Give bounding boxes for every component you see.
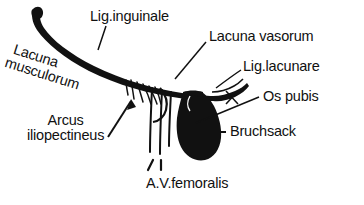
leader-lacuna-vasorum xyxy=(175,42,206,79)
label-av-femoralis: A.V.femoralis xyxy=(146,176,228,191)
leader-arcus-iliopectineus xyxy=(108,99,136,137)
lacunar-ligament-shape xyxy=(212,79,249,101)
label-os-pubis: Os pubis xyxy=(263,89,319,104)
anatomical-diagram: Lig.inguinale Lacuna vasorum Lig.lacunar… xyxy=(0,0,364,205)
label-arcus-iliopectineus: Arcus iliopectineus xyxy=(27,113,104,143)
label-arcus-line2: iliopectineus xyxy=(27,128,104,143)
leader-lig-inguinale xyxy=(98,26,106,50)
label-lig-inguinale: Lig.inguinale xyxy=(90,9,169,24)
label-lacuna-vasorum: Lacuna vasorum xyxy=(209,29,313,44)
label-arcus-line1: Arcus xyxy=(48,112,84,128)
leader-lig-lacunare xyxy=(216,70,241,88)
vessel-tick-marks xyxy=(148,160,161,170)
label-lig-lacunare: Lig.lacunare xyxy=(243,59,320,74)
label-bruchsack: Bruchsack xyxy=(230,124,296,139)
